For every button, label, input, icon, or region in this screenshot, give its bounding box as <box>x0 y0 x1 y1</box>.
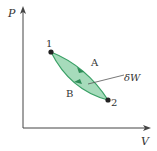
axes <box>20 6 151 131</box>
path-b-label: B <box>66 88 73 99</box>
pv-diagram: P V 1 2 A B δW <box>0 0 157 151</box>
cycle-area <box>51 52 108 100</box>
point-2-label: 2 <box>111 97 117 108</box>
point-1 <box>48 49 53 54</box>
x-axis-label: V <box>141 135 150 148</box>
dw-leader-line <box>88 75 124 84</box>
point-2 <box>105 97 110 102</box>
path-a-label: A <box>90 57 99 68</box>
point-1-label: 1 <box>46 38 52 49</box>
work-label: δW <box>124 72 141 83</box>
y-axis-label: P <box>7 7 16 20</box>
